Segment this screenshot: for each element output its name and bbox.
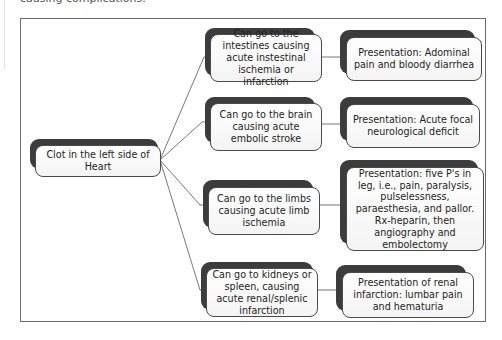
destination-label: Can go to kidneys or spleen, causing acu…	[211, 269, 313, 317]
presentation-label: Presentation of renal infarction: lumbar…	[347, 277, 469, 313]
presentation-label: Presentation: five P's in leg, i.e., pai…	[351, 168, 479, 251]
destination-label: Can go to the limbs causing acute limb i…	[213, 193, 315, 229]
root-node-label: Clot in the left side of Heart	[40, 149, 156, 173]
presentation-label: Presentation: Acute focal neurological d…	[351, 114, 475, 138]
presentation-label: Presentation: Adominal pain and bloody d…	[351, 47, 477, 71]
connector-root-to-brain	[160, 122, 210, 160]
connector-root-to-kidneys	[160, 160, 206, 290]
destination-label: Can go to the intestines causing acute i…	[215, 28, 317, 88]
connector-root-to-intestines	[160, 57, 210, 160]
destination-label: Can go to the brain causing acute emboli…	[215, 109, 317, 145]
